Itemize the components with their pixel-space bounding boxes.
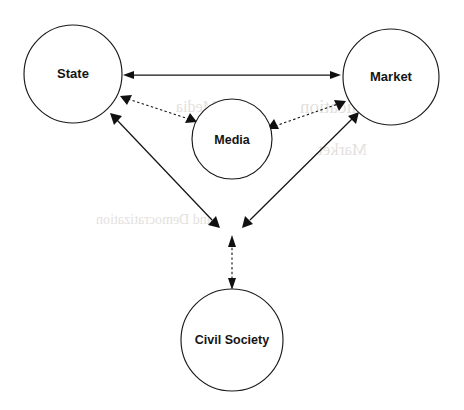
diagram-canvas: CommunicationMarketand DemocratizationMe… [0,0,464,410]
arrowhead-toward-state [123,71,134,79]
edge-media-market-line [275,104,338,126]
node-market-label: Market [370,69,413,84]
node-civil-society-label: Civil Society [195,333,269,347]
node-market[interactable]: Market [343,29,439,125]
edge-state-media-line [128,99,189,119]
arrowhead-toward-state-dashed [120,95,132,105]
node-media[interactable]: Media [192,99,272,179]
relationship-diagram: State Market Media Civil Society [0,0,464,410]
edge-hub-civil-society [228,235,236,290]
edge-state-media [120,95,197,123]
node-state-label: State [57,66,89,81]
arrowhead-toward-civil-society [228,278,236,290]
edge-media-market [267,100,346,129]
arrowhead-toward-market [330,71,341,79]
node-media-label: Media [214,133,250,147]
arrowhead-toward-market-dashed [334,100,346,111]
arrowhead-toward-hub-from-civil-society [228,235,236,247]
node-state[interactable]: State [24,25,122,123]
node-civil-society[interactable]: Civil Society [181,289,283,391]
arrowhead-toward-media-from-state [185,113,197,123]
edge-state-market [123,71,341,79]
